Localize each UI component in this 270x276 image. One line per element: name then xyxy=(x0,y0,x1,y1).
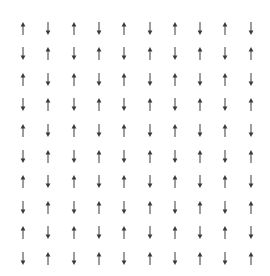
spin-up-arrow-icon xyxy=(147,47,153,61)
spin-up-arrow-icon xyxy=(248,252,254,266)
spin-up-arrow-icon xyxy=(20,22,26,36)
spin-up-arrow-icon xyxy=(45,150,51,164)
spin-down-arrow-icon xyxy=(172,98,178,112)
spin-down-arrow-icon xyxy=(248,175,254,189)
spin-down-arrow-icon xyxy=(45,22,51,36)
spin-down-arrow-icon xyxy=(96,124,102,138)
spin-down-arrow-icon xyxy=(20,201,26,215)
spin-up-arrow-icon xyxy=(96,252,102,266)
spin-down-arrow-icon xyxy=(197,73,203,87)
spin-down-arrow-icon xyxy=(20,47,26,61)
spin-up-arrow-icon xyxy=(197,47,203,61)
spin-down-arrow-icon xyxy=(197,175,203,189)
spin-down-arrow-icon xyxy=(172,150,178,164)
spin-down-arrow-icon xyxy=(45,73,51,87)
spin-down-arrow-icon xyxy=(147,226,153,240)
spin-up-arrow-icon xyxy=(96,201,102,215)
spin-down-arrow-icon xyxy=(197,124,203,138)
spin-down-arrow-icon xyxy=(45,124,51,138)
spin-down-arrow-icon xyxy=(20,252,26,266)
spin-down-arrow-icon xyxy=(71,252,77,266)
spin-down-arrow-icon xyxy=(96,73,102,87)
spin-up-arrow-icon xyxy=(248,201,254,215)
spin-up-arrow-icon xyxy=(147,201,153,215)
spin-up-arrow-icon xyxy=(222,175,228,189)
spin-up-arrow-icon xyxy=(71,226,77,240)
spin-up-arrow-icon xyxy=(147,98,153,112)
spin-up-arrow-icon xyxy=(121,124,127,138)
spin-down-arrow-icon xyxy=(248,226,254,240)
spin-up-arrow-icon xyxy=(45,201,51,215)
spin-down-arrow-icon xyxy=(121,150,127,164)
spin-down-arrow-icon xyxy=(248,22,254,36)
spin-up-arrow-icon xyxy=(197,150,203,164)
spin-up-arrow-icon xyxy=(20,175,26,189)
spin-down-arrow-icon xyxy=(20,150,26,164)
spin-up-arrow-icon xyxy=(172,175,178,189)
spin-down-arrow-icon xyxy=(147,124,153,138)
spin-up-arrow-icon xyxy=(96,98,102,112)
spin-down-arrow-icon xyxy=(96,175,102,189)
spin-down-arrow-icon xyxy=(197,226,203,240)
spin-down-arrow-icon xyxy=(45,175,51,189)
spin-down-arrow-icon xyxy=(147,73,153,87)
spin-up-arrow-icon xyxy=(172,73,178,87)
spin-down-arrow-icon xyxy=(20,98,26,112)
spin-down-arrow-icon xyxy=(172,252,178,266)
spin-down-arrow-icon xyxy=(222,47,228,61)
spin-up-arrow-icon xyxy=(222,124,228,138)
spin-up-arrow-icon xyxy=(71,22,77,36)
spin-up-arrow-icon xyxy=(20,73,26,87)
spin-up-arrow-icon xyxy=(121,73,127,87)
spin-down-arrow-icon xyxy=(222,201,228,215)
spin-up-arrow-icon xyxy=(121,226,127,240)
spin-down-arrow-icon xyxy=(121,47,127,61)
spin-up-arrow-icon xyxy=(222,22,228,36)
spin-down-arrow-icon xyxy=(222,98,228,112)
spin-up-arrow-icon xyxy=(121,175,127,189)
spin-up-arrow-icon xyxy=(96,150,102,164)
spin-up-arrow-icon xyxy=(172,226,178,240)
spin-down-arrow-icon xyxy=(71,47,77,61)
spin-up-arrow-icon xyxy=(45,47,51,61)
spin-down-arrow-icon xyxy=(96,226,102,240)
spin-up-arrow-icon xyxy=(45,98,51,112)
spin-down-arrow-icon xyxy=(147,175,153,189)
spin-up-arrow-icon xyxy=(248,150,254,164)
spin-up-arrow-icon xyxy=(147,252,153,266)
spin-down-arrow-icon xyxy=(248,73,254,87)
spin-up-arrow-icon xyxy=(121,22,127,36)
spin-down-arrow-icon xyxy=(222,252,228,266)
spin-up-arrow-icon xyxy=(248,98,254,112)
spin-down-arrow-icon xyxy=(121,252,127,266)
spin-up-arrow-icon xyxy=(71,124,77,138)
spin-up-arrow-icon xyxy=(71,175,77,189)
spin-up-arrow-icon xyxy=(172,22,178,36)
spin-down-arrow-icon xyxy=(121,98,127,112)
spin-down-arrow-icon xyxy=(71,150,77,164)
spin-down-arrow-icon xyxy=(121,201,127,215)
spin-up-arrow-icon xyxy=(222,226,228,240)
spin-up-arrow-icon xyxy=(96,47,102,61)
spin-lattice-diagram xyxy=(0,0,270,276)
spin-down-arrow-icon xyxy=(172,47,178,61)
spin-up-arrow-icon xyxy=(248,47,254,61)
spin-up-arrow-icon xyxy=(45,252,51,266)
spin-down-arrow-icon xyxy=(172,201,178,215)
spin-up-arrow-icon xyxy=(147,150,153,164)
spin-down-arrow-icon xyxy=(222,150,228,164)
spin-up-arrow-icon xyxy=(20,124,26,138)
spin-down-arrow-icon xyxy=(45,226,51,240)
spin-up-arrow-icon xyxy=(71,73,77,87)
spin-up-arrow-icon xyxy=(197,98,203,112)
spin-up-arrow-icon xyxy=(197,201,203,215)
spin-up-arrow-icon xyxy=(20,226,26,240)
spin-down-arrow-icon xyxy=(147,22,153,36)
spin-down-arrow-icon xyxy=(71,201,77,215)
spin-down-arrow-icon xyxy=(197,22,203,36)
spin-up-arrow-icon xyxy=(222,73,228,87)
spin-down-arrow-icon xyxy=(96,22,102,36)
spin-up-arrow-icon xyxy=(197,252,203,266)
spin-down-arrow-icon xyxy=(71,98,77,112)
spin-down-arrow-icon xyxy=(248,124,254,138)
